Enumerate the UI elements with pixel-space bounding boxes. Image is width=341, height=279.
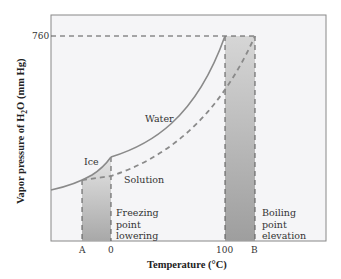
phase-diagram: Water Ice Solution Freezing point loweri… xyxy=(0,0,341,279)
solution-label: Solution xyxy=(124,174,164,185)
freezing-label-line1: Freezing xyxy=(116,207,159,218)
boiling-label-line1: Boiling xyxy=(262,207,296,218)
x-tick-b: B xyxy=(251,245,258,255)
x-tick-a: A xyxy=(78,245,86,255)
x-tick-100: 100 xyxy=(216,245,233,255)
freezing-label-line3: lowering xyxy=(116,230,158,241)
boiling-label-line3: elevation xyxy=(262,230,306,241)
y-tick-760: 760 xyxy=(32,31,49,41)
x-tick-0: 0 xyxy=(108,245,114,255)
freezing-label-line2: point xyxy=(116,219,141,230)
x-axis-label: Temperature (°C) xyxy=(147,259,227,271)
ice-label: Ice xyxy=(84,156,99,167)
water-label: Water xyxy=(145,113,174,124)
boiling-label-line2: point xyxy=(262,219,287,230)
y-axis-label: Vapor pressure of H2O (mm Hg) xyxy=(15,58,29,204)
